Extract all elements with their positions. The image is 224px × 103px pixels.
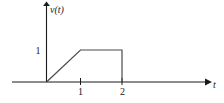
x-axis-label: t [213,80,216,90]
x-tick-label-2: 2 [118,87,127,97]
waveform-trace [47,50,123,82]
y-axis-arrowhead-icon [43,2,50,7]
x-axis-arrowhead-icon [205,79,212,86]
y-axis-label: v(t) [50,5,64,15]
x-tick-label-1: 1 [76,87,85,97]
waveform-figure: v(t) t 1 1 2 [0,0,224,103]
y-tick-label-1: 1 [34,46,42,56]
